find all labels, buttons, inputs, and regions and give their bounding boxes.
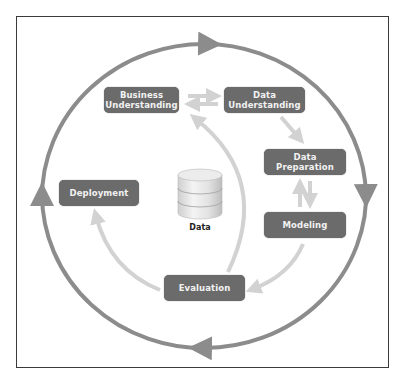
database-icon — [178, 169, 222, 219]
outer-arc-bottom-right — [200, 186, 366, 348]
phase-deployment: Deployment — [59, 180, 139, 206]
arrow-evaluation-to-deployment — [96, 216, 160, 290]
phase-evaluation: Evaluation — [164, 275, 245, 301]
phase-modeling: Modeling — [264, 212, 346, 238]
phase-data-preparation: Data Preparation — [264, 149, 346, 175]
data-label: Data — [180, 223, 220, 232]
arrow-data-understanding-to-preparation — [281, 117, 299, 138]
arrow-modeling-to-evaluation — [253, 244, 303, 289]
phase-data-understanding: Data Understanding — [224, 87, 305, 113]
phase-business-understanding: Business Understanding — [104, 87, 179, 113]
